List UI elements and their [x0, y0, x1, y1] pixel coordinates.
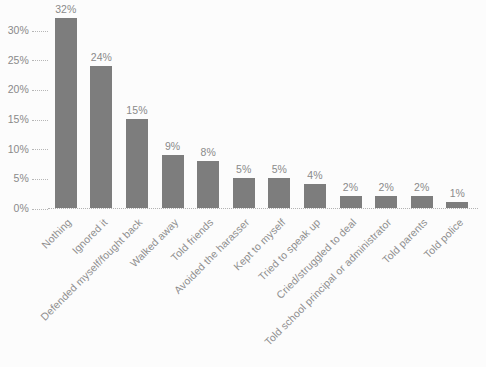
- y-axis-tick-mark: [32, 179, 48, 180]
- x-axis-labels: NothingIgnored itDefended myself/fought …: [48, 212, 476, 362]
- bar-value-label: 15%: [119, 104, 155, 116]
- y-axis-tick-label: 0%: [14, 202, 29, 214]
- plot-area: 32%24%15%9%8%5%5%4%2%2%2%1%: [48, 18, 476, 208]
- y-axis-tick: 25%: [8, 54, 48, 66]
- y-axis-tick-mark: [32, 90, 48, 91]
- y-axis-tick-mark: [32, 120, 48, 121]
- y-axis-tick-label: 25%: [8, 54, 29, 66]
- y-axis-tick: 15%: [8, 113, 48, 125]
- y-axis-tick-label: 15%: [8, 113, 29, 125]
- bar-value-label: 5%: [226, 163, 262, 175]
- y-axis-tick: 10%: [8, 143, 48, 155]
- bar-series: 32%24%15%9%8%5%5%4%2%2%2%1%: [48, 18, 476, 208]
- bar-value-label: 9%: [155, 140, 191, 152]
- bar-value-label: 24%: [84, 51, 120, 63]
- y-axis-tick-mark: [32, 31, 48, 32]
- y-axis-tick: 5%: [14, 172, 48, 184]
- y-axis-tick-label: 30%: [8, 24, 29, 36]
- y-axis-tick-mark: [32, 209, 48, 210]
- bar-value-label: 32%: [48, 3, 84, 15]
- bar-slot[interactable]: 24%: [84, 18, 120, 208]
- bar[interactable]: [55, 18, 77, 208]
- y-axis-tick: 20%: [8, 83, 48, 95]
- bar[interactable]: [90, 66, 112, 209]
- bar-slot[interactable]: 32%: [48, 18, 84, 208]
- y-axis-tick-mark: [32, 60, 48, 61]
- y-axis-tick-mark: [32, 149, 48, 150]
- y-axis-tick-label: 20%: [8, 83, 29, 95]
- y-axis-tick-label: 5%: [14, 172, 29, 184]
- y-axis-tick-label: 10%: [8, 143, 29, 155]
- y-axis: 0%5%10%15%20%25%30%: [0, 18, 48, 208]
- y-axis-tick: 30%: [8, 24, 48, 36]
- bar-slot[interactable]: 15%: [119, 18, 155, 208]
- y-axis-tick: 0%: [14, 202, 48, 214]
- bar-chart: 0%5%10%15%20%25%30% 32%24%15%9%8%5%5%4%2…: [0, 0, 486, 367]
